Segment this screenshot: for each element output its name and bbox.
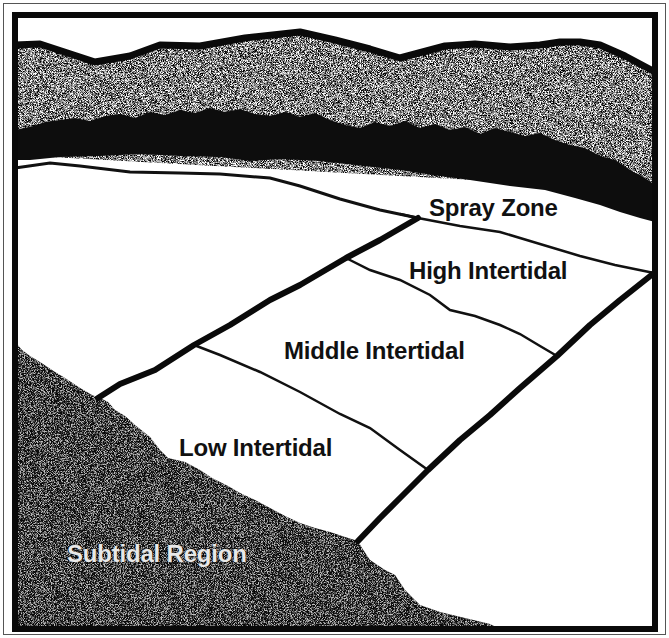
middle-intertidal-label: Middle Intertidal: [284, 339, 465, 363]
right-zone-edge: [358, 273, 654, 541]
spray-zone-label: Spray Zone: [429, 196, 558, 220]
intertidal-zone-diagram: Spray Zone High Intertidal Middle Intert…: [0, 0, 669, 638]
subtidal-region-label: Subtidal Region: [67, 542, 247, 566]
low-intertidal-label: Low Intertidal: [179, 436, 332, 460]
high-intertidal-label: High Intertidal: [409, 259, 567, 283]
